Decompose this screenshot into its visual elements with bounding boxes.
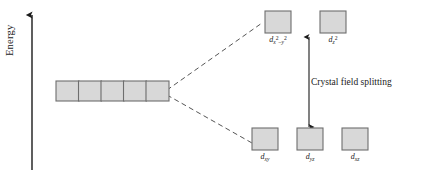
orbital-box-dyz [297,128,323,150]
degenerate-box-3 [101,81,124,101]
crystal-field-splitting-label: Crystal field splitting [311,77,392,87]
orbital-label-dx2-y2: dx2–y2 [255,36,301,46]
orbital-label-dxy-sub: xy [265,156,270,162]
orbital-box-dxz [342,128,368,150]
orbital-box-dx2-y2 [265,11,291,33]
crystal-field-splitting-figure: Energy Crystal field splitting dx2–y2 dz… [0,0,424,178]
orbital-label-dx2-y2-sup2: 2 [284,35,287,41]
degenerate-box-4 [124,81,147,101]
dashed-line-to-lower-level [167,95,252,143]
lower-level-boxes [252,128,368,150]
degenerate-box-5 [146,81,169,101]
orbital-label-dxz-sub: xz [355,156,360,162]
orbital-label-dyz: dyz [290,153,330,162]
energy-axis-label: Energy [4,0,15,56]
orbital-label-dyz-sub: yz [310,156,315,162]
orbital-label-dxy: dxy [245,153,285,162]
orbital-label-dz2-sup: 2 [335,35,338,41]
orbital-box-dxy [252,128,278,150]
diagram-canvas [0,0,424,178]
orbital-label-dz2: dz2 [313,36,353,46]
dashed-line-to-upper-level [167,23,262,90]
correlation-lines [167,23,262,143]
upper-level-boxes [265,11,346,33]
orbital-label-dxz: dxz [335,153,375,162]
degenerate-box-2 [79,81,102,101]
degenerate-orbital-set [56,81,169,101]
degenerate-box-1 [56,81,79,101]
orbital-box-dz2 [320,11,346,33]
